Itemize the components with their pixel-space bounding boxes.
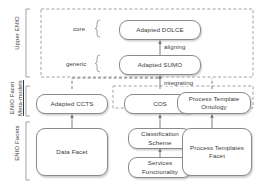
layer-label-meta-line2: Meta-models bbox=[17, 78, 25, 118]
node-process-templates-facet[interactable]: Process Templates Facet bbox=[182, 128, 252, 176]
node-adapted-sumo-label: Adapted SUMO bbox=[136, 61, 185, 69]
layer-label-upper-enio: Upper ENIO bbox=[14, 3, 20, 63]
brace-label-core: core bbox=[73, 26, 85, 32]
node-cos-label: COS bbox=[151, 100, 169, 108]
layer-label-enio-facets: ENIO Facets bbox=[14, 114, 20, 172]
curly-brace-generic bbox=[95, 55, 100, 72]
layer-label-meta-line1: ENIO Facet bbox=[9, 82, 15, 114]
brace-label-generic: generic bbox=[66, 61, 86, 67]
brace-label-generic-text: generic bbox=[66, 61, 86, 67]
node-classification-scheme-label-line2: Scheme bbox=[146, 139, 173, 147]
node-classification-scheme-label-line1: Classification bbox=[139, 130, 181, 138]
bracket-enio-facets bbox=[26, 122, 30, 180]
layer-label-upper-enio-text: Upper ENIO bbox=[14, 16, 20, 50]
bracket-upper-enio bbox=[26, 9, 30, 77]
node-pto-label-line2: Ontology bbox=[199, 103, 229, 111]
node-adapted-dolce[interactable]: Adapted DOLCE bbox=[119, 20, 201, 40]
brace-label-core-text: core bbox=[73, 26, 85, 32]
diagram-canvas: Upper ENIO ENIO Facet Meta-models ENIO F… bbox=[0, 0, 265, 184]
edge-label-aligning: aligning bbox=[163, 44, 186, 50]
node-process-template-ontology[interactable]: Process Template Ontology bbox=[177, 92, 251, 114]
node-data-facet[interactable]: Data Facet bbox=[36, 128, 108, 176]
edge-label-integrating: integrating bbox=[163, 80, 194, 86]
node-process-templates-facet-label-line1: Process Templates bbox=[188, 144, 246, 152]
bracket-enio-facet-meta-models bbox=[26, 86, 30, 116]
node-pto-label-line1: Process Template bbox=[187, 95, 242, 103]
edge-label-aligning-text: aligning bbox=[164, 44, 185, 50]
node-services-functionality-label-line1: Services bbox=[146, 159, 175, 167]
node-adapted-ccts-label: Adapted CCTS bbox=[49, 100, 96, 108]
node-data-facet-label: Data Facet bbox=[54, 148, 89, 156]
edge-label-integrating-text: integrating bbox=[164, 80, 193, 86]
layer-label-enio-facet-meta-models: ENIO Facet Meta-models bbox=[9, 78, 24, 118]
layer-label-enio-facets-text: ENIO Facets bbox=[14, 125, 20, 160]
curly-brace-core bbox=[95, 20, 100, 37]
node-process-templates-facet-label-line2: Facet bbox=[207, 152, 227, 160]
node-adapted-sumo[interactable]: Adapted SUMO bbox=[119, 55, 201, 75]
node-adapted-ccts[interactable]: Adapted CCTS bbox=[36, 94, 108, 114]
node-services-functionality-label-line2: Functionality bbox=[140, 168, 180, 176]
node-adapted-dolce-label: Adapted DOLCE bbox=[134, 26, 185, 34]
